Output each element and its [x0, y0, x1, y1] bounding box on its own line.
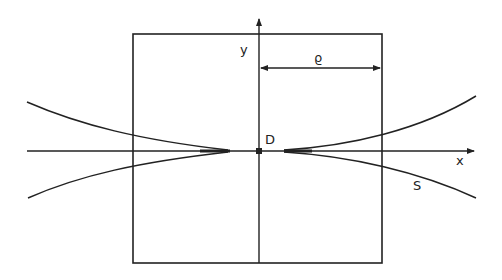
curve-s-lower-right: [284, 152, 476, 198]
diagram-canvas: y ϱ D x S: [0, 0, 502, 280]
origin-point: [256, 148, 262, 154]
y-axis-label: y: [240, 42, 248, 57]
origin-label: D: [265, 132, 275, 147]
curve-s-upper-right: [284, 96, 476, 150]
x-axis-label: x: [456, 153, 464, 168]
curve-s-upper-left: [27, 102, 228, 150]
rho-label: ϱ: [314, 50, 322, 65]
curve-s-lower-left: [28, 152, 228, 198]
curve-label: S: [413, 178, 421, 193]
